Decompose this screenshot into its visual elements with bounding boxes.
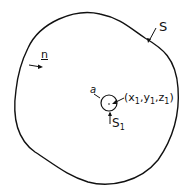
normal-arrowhead [38, 65, 43, 70]
surface-label: S [159, 20, 167, 33]
small-sphere-label: S1 [112, 117, 125, 132]
point-coordinates-label: (x1,y1,z1) [124, 92, 174, 106]
normal-vector-label: n [41, 49, 48, 60]
diagram-canvas: S n a (x1,y1,z1) S1 [0, 0, 188, 193]
radius-label: a [90, 85, 96, 95]
center-point [108, 103, 110, 105]
